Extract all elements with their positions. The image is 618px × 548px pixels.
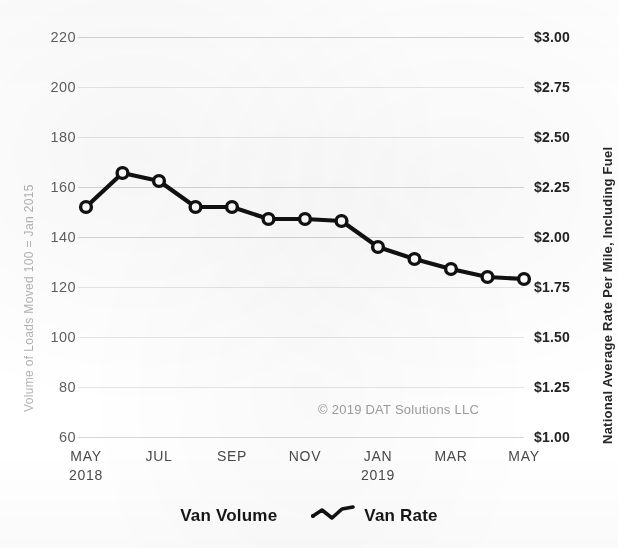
data-point[interactable] (336, 216, 347, 227)
legend-label-van-volume: Van Volume (180, 506, 277, 526)
chart-container: 220 200 180 160 140 120 100 80 60 $3.00 … (0, 0, 618, 548)
chart-legend: Van Volume Van Rate (0, 505, 618, 527)
data-point[interactable] (446, 264, 457, 275)
zigzag-line-icon (311, 505, 355, 527)
data-point[interactable] (117, 168, 128, 179)
data-point[interactable] (190, 202, 201, 213)
legend-label-van-rate: Van Rate (364, 506, 437, 526)
data-point[interactable] (482, 272, 493, 283)
legend-item-van-volume[interactable]: Van Volume (180, 506, 277, 526)
data-point[interactable] (263, 214, 274, 225)
data-point[interactable] (409, 254, 420, 265)
data-point[interactable] (154, 176, 165, 187)
van-rate-series (0, 0, 618, 548)
data-point[interactable] (227, 202, 238, 213)
van-rate-markers (81, 168, 530, 285)
data-point[interactable] (519, 274, 530, 285)
legend-item-van-rate[interactable]: Van Rate (311, 505, 437, 527)
data-point[interactable] (81, 202, 92, 213)
data-point[interactable] (373, 242, 384, 253)
data-point[interactable] (300, 214, 311, 225)
